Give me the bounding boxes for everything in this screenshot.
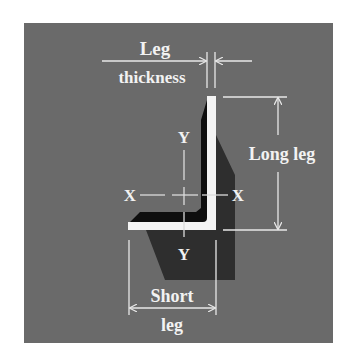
- x-axis-label-right: X: [232, 186, 245, 205]
- y-axis-label-top: Y: [178, 128, 190, 147]
- cast-shadow: [146, 135, 235, 280]
- x-axis-label-left: X: [124, 186, 137, 205]
- leg-thickness-label-line1: Leg: [140, 38, 171, 59]
- leg-thickness-label-line2: thickness: [118, 68, 185, 87]
- short-leg-label-line2: leg: [161, 315, 183, 335]
- angle-section-diagram: Leg thickness Long leg Short leg X X Y Y: [0, 0, 351, 358]
- inner-shadow: [130, 100, 207, 222]
- long-leg-label: Long leg: [249, 144, 316, 164]
- short-leg-label-line1: Short: [150, 286, 193, 306]
- y-axis-label-bottom: Y: [178, 245, 190, 264]
